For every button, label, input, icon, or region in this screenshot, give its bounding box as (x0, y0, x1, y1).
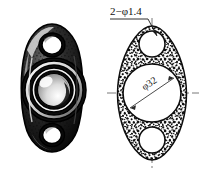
left-center-bore (35, 71, 73, 109)
left-pictorial-view (20, 22, 86, 154)
section-bottom-bolt-hole (139, 127, 165, 153)
drawing-canvas: φ32 2−φ1.4 (0, 0, 203, 170)
left-top-bolt-hole (39, 33, 65, 57)
engineering-drawing-sheet: φ32 2−φ1.4 (0, 0, 203, 170)
left-bottom-bolt-hole (40, 124, 65, 147)
section-top-bolt-hole (139, 31, 165, 57)
bolt-hole-callout-label: 2−φ1.4 (110, 5, 142, 17)
